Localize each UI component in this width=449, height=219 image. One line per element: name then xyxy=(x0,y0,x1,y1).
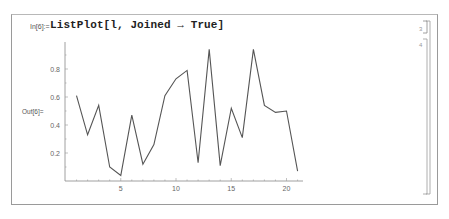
cell-brackets[interactable]: 3 4 xyxy=(0,0,449,219)
svg-text:3: 3 xyxy=(419,26,423,32)
svg-text:4: 4 xyxy=(419,42,423,48)
